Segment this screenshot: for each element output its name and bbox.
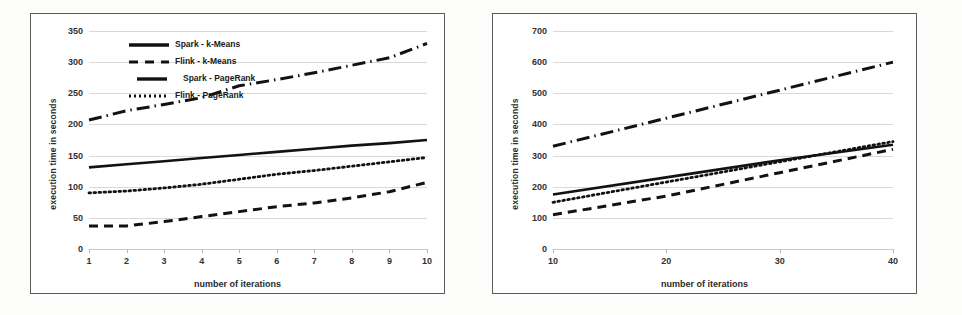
chart-area-right: execution time in seconds number of iter… [493,14,916,293]
y-axis-tick: 0 [542,244,547,254]
figure-container: execution time in seconds number of iter… [0,0,962,315]
x-axis-tickmark [89,249,90,253]
legend-item-flink-k-means[interactable]: Flink - k-Means [129,53,255,70]
series-line-spark-pagerank [553,62,893,146]
legend-item-flink-pagerank[interactable]: Flink - PageRank [129,87,255,104]
x-axis-tickmark [427,249,428,253]
x-axis-tickmark [666,249,667,253]
x-axis-tick: 1 [86,256,91,266]
x-axis-tickmark [277,249,278,253]
y-axis-tick: 200 [532,182,547,192]
x-axis-tick: 5 [237,256,242,266]
x-axis-tick: 2 [124,256,129,266]
legend-left: Spark - k-MeansFlink - k-MeansSpark - Pa… [129,36,255,104]
x-axis-tick: 8 [349,256,354,266]
x-axis-tick: 40 [888,256,898,266]
x-axis-tick: 6 [274,256,279,266]
y-axis-tick: 150 [68,151,83,161]
y-axis-tick: 250 [68,88,83,98]
x-axis-tickmark [780,249,781,253]
x-axis-tick: 9 [387,256,392,266]
x-axis-label-right: number of iterations [493,279,916,289]
x-axis-tick: 4 [199,256,204,266]
series-layer [553,31,893,249]
x-axis-tickmark [553,249,554,253]
legend-swatch-dashed-icon [129,57,169,67]
chart-panel-left: execution time in seconds number of iter… [30,13,445,294]
gridline [553,249,893,250]
x-axis-label-left: number of iterations [31,279,444,289]
legend-swatch-dotted-icon [129,91,169,101]
y-axis-tick: 0 [78,244,83,254]
chart-area-left: execution time in seconds number of iter… [31,14,444,293]
x-axis-tickmark [127,249,128,253]
y-axis-label-left: execution time in seconds [48,74,58,234]
legend-swatch-solid-thick-icon [129,40,169,50]
legend-label: Spark - PageRank [183,74,255,83]
legend-label: Flink - k-Means [175,57,236,66]
chart-panel-right: execution time in seconds number of iter… [492,13,917,294]
y-axis-tick: 50 [73,213,83,223]
legend-label: Flink - PageRank [175,91,244,100]
y-axis-tick: 700 [532,26,547,36]
y-axis-tick: 200 [68,119,83,129]
y-axis-tick: 500 [532,88,547,98]
y-axis-tick: 300 [68,57,83,67]
x-axis-tick: 20 [661,256,671,266]
y-axis-tick: 400 [532,119,547,129]
x-axis-tick: 30 [775,256,785,266]
legend-label: Spark - k-Means [175,40,240,49]
legend-swatch-dashdot-icon [129,74,169,84]
x-axis-tick: 10 [422,256,432,266]
legend-item-spark-pagerank[interactable]: Spark - PageRank [129,70,255,87]
x-axis-tickmark [893,249,894,253]
x-axis-tickmark [202,249,203,253]
x-axis-tickmark [164,249,165,253]
gridline [89,249,427,250]
legend-item-spark-k-means[interactable]: Spark - k-Means [129,36,255,53]
x-axis-tickmark [314,249,315,253]
y-axis-tick: 100 [532,213,547,223]
series-line-flink-k-means [553,149,893,214]
y-axis-label-right: execution time in seconds [510,74,520,234]
plot-right: 010020030040050060070010203040 [553,31,893,249]
y-axis-tick: 300 [532,151,547,161]
x-axis-tickmark [239,249,240,253]
x-axis-tickmark [389,249,390,253]
y-axis-tick: 100 [68,182,83,192]
x-axis-tick: 10 [548,256,558,266]
x-axis-tick: 7 [312,256,317,266]
y-axis-tick: 350 [68,26,83,36]
series-line-spark-k-means [553,145,893,195]
y-axis-tick: 600 [532,57,547,67]
x-axis-tick: 3 [162,256,167,266]
x-axis-tickmark [352,249,353,253]
